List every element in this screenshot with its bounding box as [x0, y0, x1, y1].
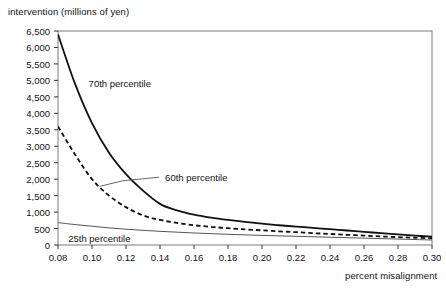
- x-tick-label: 0.30: [423, 252, 442, 263]
- series-annotation-25th-percentile: 25th percentile: [68, 233, 130, 244]
- y-tick-label: 500: [0, 223, 50, 234]
- y-tick-label: 4,500: [0, 91, 50, 102]
- x-tick-label: 0.12: [117, 252, 136, 263]
- x-tick-label: 0.10: [83, 252, 102, 263]
- y-tick-label: 5,500: [0, 58, 50, 69]
- x-tick-label: 0.20: [253, 252, 272, 263]
- x-tick-label: 0.08: [49, 252, 68, 263]
- chart-figure: intervention (millions of yen) percent m…: [0, 0, 446, 291]
- plot-frame: [58, 31, 432, 245]
- y-tick-label: 6,000: [0, 42, 50, 53]
- plot-area: [0, 0, 446, 291]
- series-group: [58, 34, 432, 240]
- x-tick-label: 0.16: [185, 252, 204, 263]
- x-tick-label: 0.28: [389, 252, 408, 263]
- y-tick-label: 3,500: [0, 124, 50, 135]
- y-tick-label: 2,500: [0, 157, 50, 168]
- series-annotation-70th-percentile: 70th percentile: [89, 78, 151, 89]
- y-tick-label: 4,000: [0, 108, 50, 119]
- x-tick-label: 0.14: [151, 252, 170, 263]
- series-line-70th-percentile: [58, 34, 432, 236]
- x-tick-label: 0.18: [219, 252, 238, 263]
- series-annotation-60th-percentile: 60th percentile: [165, 172, 227, 183]
- y-tick-label: 6,500: [0, 26, 50, 37]
- y-tick-label: 2,000: [0, 174, 50, 185]
- x-tick-label: 0.26: [355, 252, 374, 263]
- y-tick-label: 1,500: [0, 190, 50, 201]
- y-tick-label: 1,000: [0, 207, 50, 218]
- x-tick-label: 0.22: [287, 252, 306, 263]
- x-tick-label: 0.24: [321, 252, 340, 263]
- y-tick-label: 0: [0, 240, 50, 251]
- y-tick-label: 3,000: [0, 141, 50, 152]
- y-tick-label: 5,000: [0, 75, 50, 86]
